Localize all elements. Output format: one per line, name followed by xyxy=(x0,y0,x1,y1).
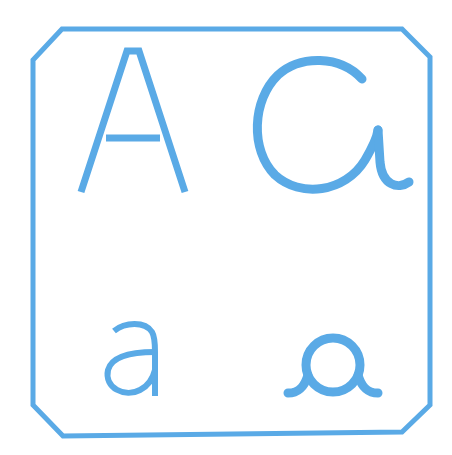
lowercase-print-a: a xyxy=(0,0,155,396)
letter-card: A a a a xyxy=(0,0,452,455)
card-frame xyxy=(33,29,430,436)
